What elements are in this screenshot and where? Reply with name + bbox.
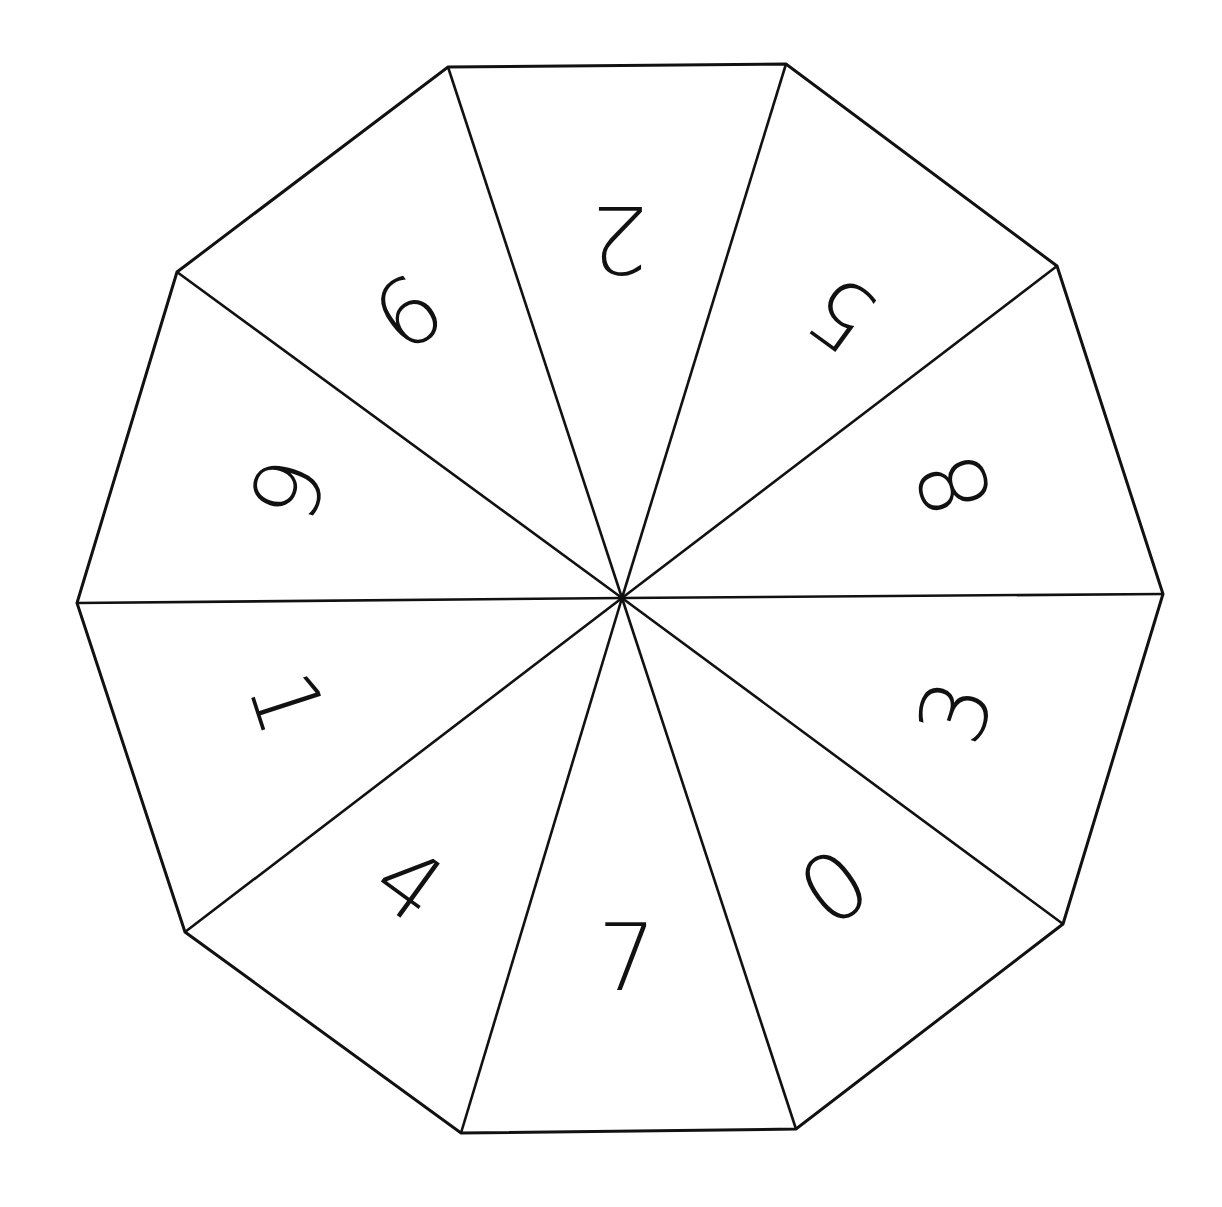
decagon-spinner: 2583074169 bbox=[0, 0, 1222, 1207]
sector-label-bottom: 7 bbox=[598, 905, 657, 1012]
sector-label-top: 2 bbox=[590, 185, 649, 292]
